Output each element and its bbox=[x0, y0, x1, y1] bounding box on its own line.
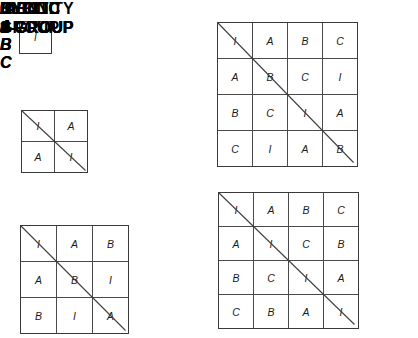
table-cell: C bbox=[218, 131, 253, 167]
table-cell: A bbox=[253, 23, 288, 59]
cayley-table: I A A I bbox=[21, 110, 88, 173]
table-row: A I C B bbox=[219, 227, 359, 261]
table-cell: I bbox=[288, 95, 323, 131]
table-cell: A bbox=[288, 131, 323, 167]
table-row: I A bbox=[22, 111, 88, 142]
table-cell: C bbox=[323, 23, 358, 59]
table-cell: I bbox=[218, 23, 253, 59]
cayley-table: I A B A B I B I A bbox=[20, 225, 129, 334]
table-cell: A bbox=[218, 59, 253, 95]
cyclic-2-group-table: I A A I bbox=[21, 110, 88, 173]
table-cell: I bbox=[21, 226, 57, 262]
table-cell: I bbox=[323, 59, 358, 95]
group-tables-figure: I I I IDENTITY GROUP I A I A I A bbox=[0, 0, 418, 338]
table-cell: B bbox=[57, 262, 93, 298]
table-cell: I bbox=[93, 262, 129, 298]
table-cell: I bbox=[324, 295, 359, 329]
table-cell: B bbox=[218, 95, 253, 131]
table-cell: B bbox=[21, 298, 57, 334]
row-header: C bbox=[0, 54, 12, 72]
table-cell: A bbox=[21, 262, 57, 298]
table-cell: B bbox=[253, 59, 288, 95]
table-cell: B bbox=[93, 226, 129, 262]
table-row: C B A I bbox=[219, 295, 359, 329]
cyclic-3-group-table: I A B A B I B I A bbox=[20, 225, 129, 334]
klein-4-group-table: I A B C A I C B B C I A C bbox=[218, 192, 359, 329]
table-cell: C bbox=[253, 95, 288, 131]
table-cell: B bbox=[323, 131, 358, 167]
cyclic-4-group-table: I A B C A B C I B C I A C bbox=[217, 22, 358, 167]
table-row: B C I A bbox=[218, 95, 358, 131]
table-cell: B bbox=[324, 227, 359, 261]
table-cell: B bbox=[289, 193, 324, 227]
table-row: I A B bbox=[21, 226, 129, 262]
table-cell: A bbox=[22, 142, 55, 173]
table-cell: A bbox=[323, 95, 358, 131]
cayley-table: I A B C A B C I B C I A C bbox=[217, 22, 358, 167]
table-cell: A bbox=[57, 226, 93, 262]
table-cell: A bbox=[254, 193, 289, 227]
table-row: A I bbox=[22, 142, 88, 173]
table-cell: I bbox=[253, 131, 288, 167]
table-row: I A B C bbox=[219, 193, 359, 227]
table-row: B I A bbox=[21, 298, 129, 334]
table-cell: I bbox=[57, 298, 93, 334]
table-cell: I bbox=[289, 261, 324, 295]
table-cell: B bbox=[219, 261, 254, 295]
table-row: C I A B bbox=[218, 131, 358, 167]
table-cell: A bbox=[219, 227, 254, 261]
table-cell: C bbox=[254, 261, 289, 295]
klein-4-group-caption: KLEIN 4-GROUP bbox=[0, 0, 74, 38]
table-row: I A B C bbox=[218, 23, 358, 59]
table-row: A B C I bbox=[218, 59, 358, 95]
cayley-table: I A B C A I C B B C I A C bbox=[218, 192, 359, 329]
table-cell: I bbox=[22, 111, 55, 142]
table-row: A B I bbox=[21, 262, 129, 298]
table-cell: A bbox=[55, 111, 88, 142]
table-cell: I bbox=[55, 142, 88, 173]
table-cell: A bbox=[324, 261, 359, 295]
table-cell: I bbox=[254, 227, 289, 261]
table-cell: C bbox=[288, 59, 323, 95]
table-cell: C bbox=[289, 227, 324, 261]
table-cell: C bbox=[324, 193, 359, 227]
table-cell: A bbox=[93, 298, 129, 334]
row-header: B bbox=[0, 36, 12, 54]
table-cell: I bbox=[219, 193, 254, 227]
table-cell: B bbox=[288, 23, 323, 59]
table-row: B C I A bbox=[219, 261, 359, 295]
table-cell: B bbox=[254, 295, 289, 329]
table-cell: C bbox=[219, 295, 254, 329]
table-cell: A bbox=[289, 295, 324, 329]
